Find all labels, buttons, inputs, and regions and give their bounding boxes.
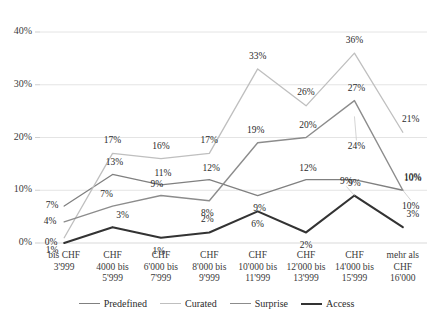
x-axis-category-label: CHF8'000 bis9'999 — [185, 250, 233, 285]
data-label: 7% — [46, 200, 59, 210]
x-axis-label-line: CHF — [282, 250, 330, 262]
series-line-access — [64, 196, 403, 243]
legend-label: Curated — [185, 298, 217, 309]
x-axis-label-line: CHF — [330, 250, 378, 262]
data-label: 2% — [300, 240, 313, 250]
data-label: 0% — [45, 237, 58, 247]
legend-line-swatch — [79, 303, 100, 304]
y-axis-tick-label: 40% — [0, 25, 32, 36]
data-label-callout: 9% — [340, 176, 353, 186]
label-leader-line — [403, 190, 411, 200]
data-label-callout: 24% — [348, 141, 365, 151]
x-axis-label-line: CHF — [88, 250, 136, 262]
data-label: 11% — [154, 168, 171, 178]
data-label: 17% — [104, 135, 121, 145]
legend-label: Access — [326, 298, 354, 309]
legend-line-swatch — [230, 303, 251, 304]
data-label-callout: 10% — [402, 201, 419, 211]
legend-item-curated[interactable]: Curated — [160, 298, 217, 309]
y-axis-tick-label: 30% — [0, 78, 32, 89]
data-label: 4% — [44, 216, 57, 226]
x-axis-category-label: CHF12'000 bis13'999 — [282, 250, 330, 285]
label-leader-line — [354, 116, 356, 140]
data-label: 17% — [201, 135, 218, 145]
x-axis-label-line: 9'999 — [185, 273, 233, 285]
x-axis-label-line: 5'999 — [88, 273, 136, 285]
data-label: 13% — [106, 157, 123, 167]
x-axis-label-line: 12'000 bis — [282, 262, 330, 274]
data-label: 20% — [299, 120, 316, 130]
data-label: 9% — [151, 179, 164, 189]
x-axis-label-line: CHF — [234, 250, 282, 262]
data-label: 6% — [251, 219, 264, 229]
x-axis-label-line: 13'999 — [282, 273, 330, 285]
x-axis-label-line: mehr als — [379, 250, 427, 262]
data-label: 2% — [201, 214, 214, 224]
x-axis-label-line: 3'999 — [40, 262, 88, 274]
x-axis-label-line: 11'999 — [234, 273, 282, 285]
line-chart: 0%10%20%30%40% bis CHF3'999CHF4000 bis5'… — [0, 0, 433, 326]
x-axis-category-label: CHF14'000 bis15'999 — [330, 250, 378, 285]
x-axis-label-line: 14'000 bis — [330, 262, 378, 274]
x-axis-category-label: CHF4000 bis5'999 — [88, 250, 136, 285]
legend-item-surprise[interactable]: Surprise — [230, 298, 288, 309]
legend-item-access[interactable]: Access — [301, 298, 354, 309]
legend-line-swatch — [160, 303, 181, 304]
x-axis-category-label: mehr alsCHF16'000 — [379, 250, 427, 285]
x-axis-label-line: CHF — [379, 262, 427, 274]
data-label: 3% — [116, 210, 129, 220]
x-axis-label-line: 7'999 — [137, 273, 185, 285]
x-axis-label-line: 6'000 bis — [137, 262, 185, 274]
y-axis-tick-label: 20% — [0, 131, 32, 142]
data-label: 27% — [348, 83, 365, 93]
data-label: 33% — [249, 51, 266, 61]
x-axis-label-line: CHF — [185, 250, 233, 262]
data-label: 19% — [247, 125, 264, 135]
chart-legend: PredefinedCuratedSurpriseAccess — [0, 298, 433, 309]
legend-line-swatch — [301, 303, 322, 305]
y-axis-tick-label: 0% — [0, 236, 32, 247]
x-axis-label-line: 15'999 — [330, 273, 378, 285]
legend-label: Predefined — [104, 298, 147, 309]
legend-item-predefined[interactable]: Predefined — [79, 298, 147, 309]
data-label: 7% — [100, 189, 113, 199]
x-axis-label-line: 4000 bis — [88, 262, 136, 274]
data-label: 12% — [203, 163, 220, 173]
data-label: 9% — [253, 203, 266, 213]
x-axis-label-line: 8'000 bis — [185, 262, 233, 274]
data-label: 16% — [152, 141, 169, 151]
data-label: 21% — [402, 114, 419, 124]
y-axis-tick-label: 10% — [0, 183, 32, 194]
data-label: 36% — [346, 35, 363, 45]
data-label: 10% — [404, 172, 421, 182]
legend-label: Surprise — [255, 298, 288, 309]
data-label: 26% — [297, 87, 314, 97]
data-label: 1% — [153, 246, 166, 256]
label-leader-line — [346, 187, 354, 196]
x-axis-category-label: CHF10'000 bis11'999 — [234, 250, 282, 285]
x-axis-label-line: 10'000 bis — [234, 262, 282, 274]
data-label: 12% — [299, 163, 316, 173]
x-axis-label-line: 16'000 — [379, 273, 427, 285]
